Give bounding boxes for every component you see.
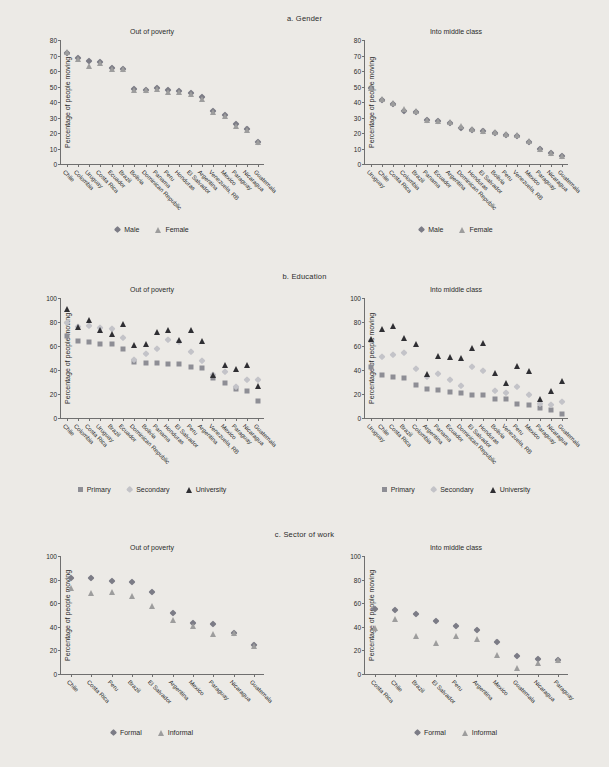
data-point bbox=[473, 627, 480, 634]
x-tick-mark bbox=[371, 418, 372, 421]
data-point bbox=[559, 153, 565, 159]
data-point bbox=[559, 378, 565, 384]
legend-item[interactable]: University bbox=[490, 486, 531, 493]
x-tick-mark bbox=[517, 164, 518, 167]
x-tick-mark bbox=[495, 164, 496, 167]
data-point bbox=[413, 341, 419, 347]
panel-title-c: c. Sector of work bbox=[0, 530, 609, 539]
data-point bbox=[143, 341, 149, 347]
data-point bbox=[64, 306, 70, 312]
data-point bbox=[243, 376, 251, 384]
legend-label: University bbox=[196, 486, 227, 493]
y-tick-mark bbox=[362, 298, 365, 299]
x-tick-mark bbox=[375, 674, 376, 677]
y-tick-mark bbox=[58, 370, 61, 371]
legend-label: Formal bbox=[424, 729, 446, 736]
triangle-dark-icon bbox=[186, 487, 192, 493]
data-point bbox=[492, 370, 498, 376]
data-point bbox=[188, 365, 193, 370]
x-tick-mark bbox=[438, 164, 439, 167]
data-point bbox=[109, 331, 115, 337]
x-tick-label: Argentina bbox=[471, 679, 493, 701]
data-point bbox=[153, 345, 161, 353]
data-point bbox=[98, 341, 103, 346]
y-tick-mark bbox=[58, 322, 61, 323]
legend-a-left: MaleFemale bbox=[0, 226, 304, 233]
data-point bbox=[433, 640, 439, 646]
data-point bbox=[559, 398, 567, 406]
x-tick-mark bbox=[225, 164, 226, 167]
legend-item[interactable]: Formal bbox=[111, 729, 142, 736]
x-tick-mark bbox=[506, 164, 507, 167]
data-point bbox=[491, 387, 499, 395]
y-tick-mark bbox=[362, 322, 365, 323]
legend-item[interactable]: Secondary bbox=[431, 486, 474, 493]
legend-item[interactable]: Female bbox=[155, 226, 188, 233]
data-point bbox=[68, 574, 75, 581]
x-tick-mark bbox=[436, 674, 437, 677]
legend-item[interactable]: University bbox=[186, 486, 227, 493]
legend-item[interactable]: Secondary bbox=[127, 486, 170, 493]
y-tick-mark bbox=[58, 56, 61, 57]
data-point bbox=[176, 337, 182, 343]
x-tick-mark bbox=[202, 418, 203, 421]
data-point bbox=[526, 368, 532, 374]
x-tick-mark bbox=[112, 418, 113, 421]
legend-label: Primary bbox=[391, 486, 415, 493]
data-point bbox=[503, 397, 508, 402]
data-point bbox=[513, 384, 521, 392]
data-point bbox=[548, 150, 554, 156]
x-tick-label: Peru bbox=[107, 679, 120, 692]
data-point bbox=[453, 633, 459, 639]
legend-item[interactable]: Informal bbox=[158, 729, 193, 736]
y-tick-mark bbox=[362, 71, 365, 72]
x-tick-mark bbox=[371, 164, 372, 167]
legend-item[interactable]: Primary bbox=[78, 486, 111, 493]
x-tick-mark bbox=[506, 418, 507, 421]
x-tick-mark bbox=[562, 164, 563, 167]
y-tick-mark bbox=[58, 71, 61, 72]
y-tick-mark bbox=[362, 580, 365, 581]
triangle-icon bbox=[459, 227, 465, 233]
legend-item[interactable]: Primary bbox=[382, 486, 415, 493]
x-tick-mark bbox=[191, 418, 192, 421]
legend-item[interactable]: Formal bbox=[415, 729, 446, 736]
legend-item[interactable]: Male bbox=[115, 226, 139, 233]
legend-item[interactable]: Male bbox=[419, 226, 443, 233]
x-tick-mark bbox=[247, 164, 248, 167]
data-point bbox=[165, 89, 171, 95]
data-point bbox=[368, 365, 373, 370]
diamond-light-icon bbox=[430, 486, 438, 494]
data-point bbox=[424, 117, 430, 123]
y-tick-mark bbox=[58, 580, 61, 581]
x-tick-mark bbox=[461, 418, 462, 421]
x-tick-mark bbox=[540, 418, 541, 421]
data-point bbox=[412, 366, 420, 374]
y-tick-mark bbox=[362, 149, 365, 150]
data-point bbox=[154, 361, 159, 366]
x-tick-mark bbox=[495, 418, 496, 421]
legend-item[interactable]: Informal bbox=[462, 729, 497, 736]
data-point bbox=[401, 106, 407, 112]
data-point bbox=[391, 374, 396, 379]
y-tick-mark bbox=[58, 674, 61, 675]
data-point bbox=[142, 351, 150, 359]
panel-title-a: a. Gender bbox=[0, 14, 609, 23]
data-point bbox=[390, 100, 396, 106]
data-point bbox=[149, 588, 156, 595]
y-tick-mark bbox=[58, 394, 61, 395]
x-tick-mark bbox=[416, 674, 417, 677]
data-point bbox=[169, 609, 176, 616]
data-point bbox=[88, 574, 95, 581]
data-point bbox=[453, 622, 460, 629]
y-tick-mark bbox=[58, 603, 61, 604]
triangle-icon bbox=[462, 730, 468, 736]
data-point bbox=[468, 363, 476, 371]
diamond-icon bbox=[418, 226, 425, 233]
plot-area: 020406080100Costa RicaChileBrazilEl Salv… bbox=[364, 556, 568, 675]
data-point bbox=[514, 653, 521, 660]
data-point bbox=[120, 321, 126, 327]
y-tick-mark bbox=[362, 56, 365, 57]
legend-item[interactable]: Female bbox=[459, 226, 492, 233]
data-point bbox=[109, 341, 114, 346]
